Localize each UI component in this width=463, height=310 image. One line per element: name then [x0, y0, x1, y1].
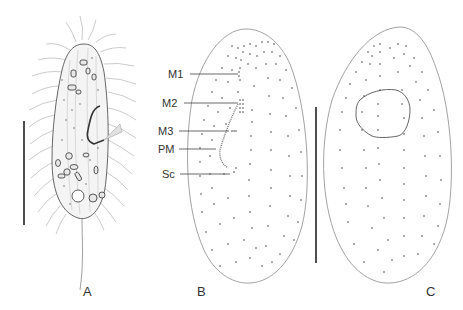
- basal-bodies-c: [339, 43, 442, 273]
- figure: M1 M2 M3 PM Sc A B C: [0, 0, 463, 310]
- label-m3: M3: [158, 125, 173, 137]
- label-m1: M1: [168, 68, 183, 80]
- figure-drawing: [0, 0, 463, 310]
- label-sc: Sc: [162, 168, 175, 180]
- panel-label-a: A: [83, 284, 92, 299]
- panel-a-cell: [29, 16, 136, 290]
- label-m2: M2: [162, 97, 177, 109]
- panel-label-b: B: [197, 284, 206, 299]
- caudal-cilium: [80, 218, 83, 290]
- panel-label-c: C: [426, 284, 435, 299]
- cell-outline-c: [324, 27, 452, 283]
- label-pm: PM: [158, 143, 175, 155]
- panel-b-cell: [188, 29, 308, 283]
- basal-bodies-b: [199, 41, 303, 267]
- paroral-membrane: [220, 104, 238, 168]
- panel-c-cell: [324, 27, 452, 283]
